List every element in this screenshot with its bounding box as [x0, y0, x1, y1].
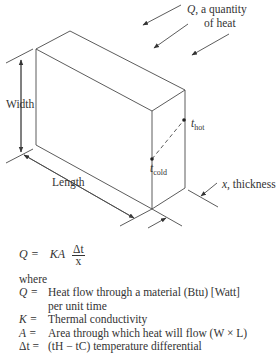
- t-hot-label: thot: [191, 117, 204, 134]
- thickness-arrow-right: [201, 183, 217, 196]
- where-label: where: [19, 273, 247, 286]
- width-label: Width: [6, 98, 34, 110]
- definition-q-continuation: per unit time: [19, 300, 247, 313]
- heat-transfer-block-diagram: [0, 0, 279, 230]
- equation-fraction: Δt x: [72, 244, 85, 267]
- t-cold-label: tcold: [150, 162, 167, 179]
- t-hot-point: [182, 118, 186, 122]
- equation-rhs: KA: [50, 247, 65, 261]
- definition-q: Q = Heat flow through a material (Btu) […: [19, 286, 247, 299]
- heat-label-line1: QQ, a quantity, a quantity: [187, 3, 247, 15]
- equation-lhs: Q =: [19, 247, 39, 261]
- thickness-label: x, thickness: [222, 178, 276, 190]
- heat-label-line2: of heat: [204, 17, 236, 29]
- definition-a: A = Area through which heat will flow (W…: [19, 327, 247, 340]
- length-label: Length: [52, 176, 85, 188]
- definition-delta-t: Δt = (tH − tC) temperature differential: [19, 340, 247, 353]
- heat-flow-equation: Q = KA Δt x: [19, 244, 85, 267]
- t-cold-point: [150, 157, 154, 161]
- definition-k: K = Thermal conductivity: [19, 313, 247, 326]
- temperature-gradient-line: [152, 120, 184, 159]
- equation-denominator: x: [72, 256, 85, 267]
- thickness-arrow-left: [148, 218, 166, 228]
- definitions-list: where Q = Heat flow through a material (…: [19, 273, 247, 353]
